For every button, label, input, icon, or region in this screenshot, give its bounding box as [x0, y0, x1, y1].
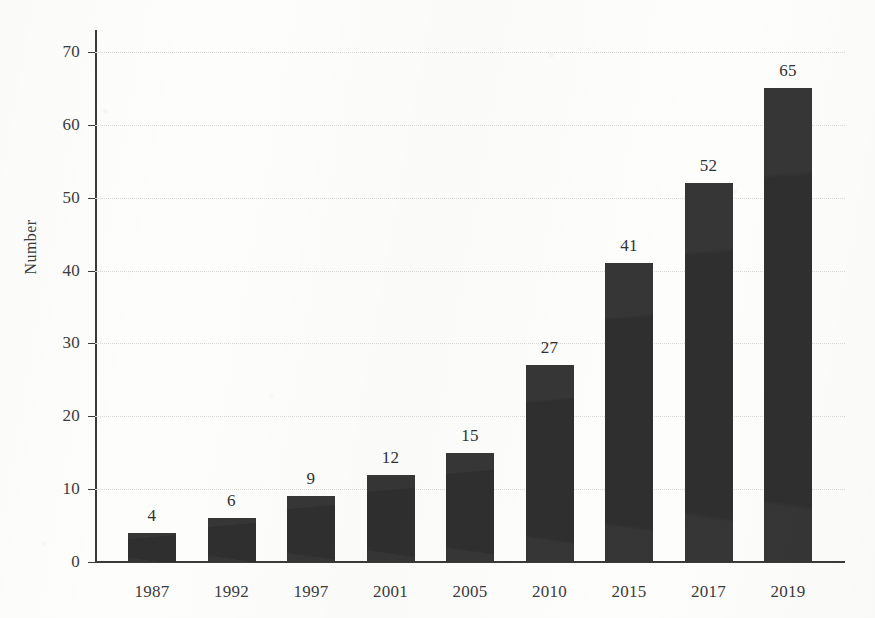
bar-value-label: 12 — [351, 449, 431, 466]
y-axis-tick-mark — [88, 125, 95, 126]
y-axis-tick-label: 10 — [15, 480, 80, 497]
x-axis-tick-label: 1997 — [266, 583, 356, 600]
bar — [367, 475, 415, 562]
bar — [287, 496, 335, 562]
y-axis-title-wrapper: Number — [0, 238, 103, 258]
y-axis-tick-label: 20 — [15, 407, 80, 424]
x-axis-tick-label: 1992 — [187, 583, 277, 600]
y-axis-tick-label: 40 — [15, 262, 80, 279]
y-axis-tick-label: 70 — [15, 43, 80, 60]
y-axis-tick-mark — [88, 562, 95, 563]
bar-value-label: 65 — [748, 62, 828, 79]
x-axis-tick-label: 2017 — [664, 583, 754, 600]
gridline — [95, 198, 845, 200]
bar — [208, 518, 256, 562]
y-axis-tick-mark — [88, 198, 95, 199]
bar-value-label: 4 — [112, 507, 192, 524]
bar — [685, 183, 733, 562]
x-axis-tick-label: 2019 — [743, 583, 833, 600]
bar — [605, 263, 653, 562]
chart-page: Number 010203040506070 41987619929199712… — [0, 0, 875, 618]
x-axis-tick-label: 2010 — [505, 583, 595, 600]
bar — [764, 88, 812, 562]
y-axis-tick-label: 60 — [15, 116, 80, 133]
bar — [446, 453, 494, 562]
gridline — [95, 271, 845, 273]
y-axis-tick-mark — [88, 416, 95, 417]
x-axis-tick-label: 2015 — [584, 583, 674, 600]
bar-value-label: 9 — [271, 470, 351, 487]
bar — [526, 365, 574, 562]
bar-value-label: 41 — [589, 237, 669, 254]
gridline — [95, 343, 845, 345]
y-axis-tick-mark — [88, 52, 95, 53]
gridline — [95, 52, 845, 54]
bar-value-label: 27 — [510, 339, 590, 356]
bar — [128, 533, 176, 562]
bar-value-label: 6 — [192, 492, 272, 509]
bar-value-label: 52 — [669, 157, 749, 174]
x-axis-tick-label: 2005 — [425, 583, 515, 600]
bar-value-label: 15 — [430, 427, 510, 444]
y-axis-tick-label: 0 — [15, 553, 80, 570]
y-axis-tick-mark — [88, 489, 95, 490]
gridline — [95, 416, 845, 418]
y-axis-tick-mark — [88, 271, 95, 272]
y-axis-tick-label: 50 — [15, 189, 80, 206]
y-axis-tick-mark — [88, 343, 95, 344]
y-axis-tick-label: 30 — [15, 334, 80, 351]
x-axis-tick-label: 1987 — [107, 583, 197, 600]
x-axis-tick-label: 2001 — [346, 583, 436, 600]
gridline — [95, 125, 845, 127]
